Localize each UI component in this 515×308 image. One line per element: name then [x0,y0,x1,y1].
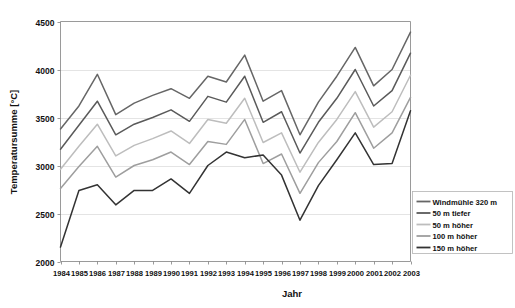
x-tick-label: 1995 [255,269,273,278]
y-tick-label: 2000 [36,258,55,268]
x-tick-label: 1999 [329,269,346,278]
y-axis-title: Temperatursumme [°C] [8,90,19,194]
line-chart: 200025003000350040004500 198419851986198… [0,0,515,308]
x-tick-label: 1992 [200,269,217,278]
x-tick-label: 2000 [347,269,364,278]
legend-item-label[interactable]: 50 m tiefer [433,209,471,218]
y-tick-label: 4500 [36,18,55,28]
x-axis-title: Jahr [282,288,302,299]
x-tick-label: 1997 [292,269,309,278]
x-tick-label: 1988 [126,269,143,278]
y-tick-label: 4000 [36,66,55,76]
x-tick-label: 1985 [71,269,89,278]
x-tick-labels: 1984198519861987198819891990199119921993… [53,269,420,278]
legend-item-label[interactable]: 100 m höher [433,232,478,241]
x-tick-label: 1987 [108,269,125,278]
gridlines [61,71,411,215]
x-tick-label: 1993 [218,269,235,278]
y-tick-labels: 200025003000350040004500 [36,18,55,268]
x-tick-label: 1991 [181,269,199,278]
legend-item-label[interactable]: 50 m höher [433,221,474,230]
x-tick-label: 2001 [366,269,384,278]
x-tick-marks [62,262,412,265]
x-tick-label: 1986 [89,269,106,278]
x-tick-label: 1994 [237,269,255,278]
y-tick-label: 3500 [36,114,55,124]
legend-item-label[interactable]: Windmühle 320 m [433,198,498,207]
y-tick-marks [58,23,61,263]
legend: Windmühle 320 m50 m tiefer50 m höher100 … [413,192,513,254]
x-tick-label: 1984 [53,269,71,278]
x-tick-label: 1996 [274,269,291,278]
y-tick-label: 3000 [36,162,55,172]
legend-item-label[interactable]: 150 m höher [433,244,478,253]
x-tick-label: 1990 [163,269,180,278]
x-tick-label: 1998 [310,269,327,278]
x-tick-label: 2003 [403,269,420,278]
x-tick-label: 2002 [384,269,401,278]
plot-frame [61,22,411,262]
x-tick-label: 1989 [145,269,162,278]
chart-container: 200025003000350040004500 198419851986198… [0,0,515,308]
y-tick-label: 2500 [36,210,55,220]
